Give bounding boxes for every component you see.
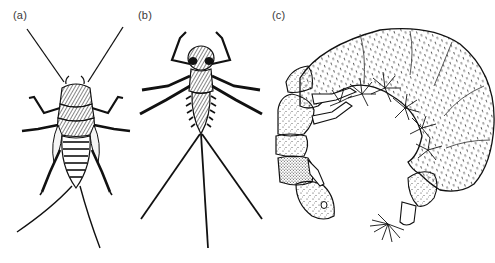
panel-a: (a) — [0, 0, 130, 263]
panel-label-c: (c) — [272, 9, 285, 21]
panel-label-a: (a) — [13, 9, 27, 21]
panel-c: (c) — [265, 0, 495, 263]
panel-label-b: (b) — [138, 9, 152, 21]
panel-b: (b) — [130, 0, 265, 263]
